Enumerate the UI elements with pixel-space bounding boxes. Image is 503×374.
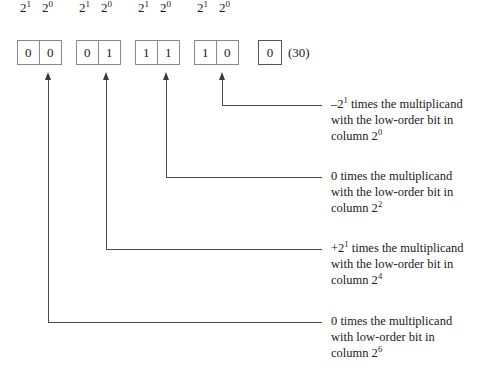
annotation-line-2: with the low-order bit in bbox=[331, 256, 463, 272]
connector-vline-column-6 bbox=[48, 80, 49, 323]
bit-cell: 0 bbox=[77, 41, 99, 64]
extra-bit-note: (30) bbox=[288, 45, 310, 60]
connector-vline-column-4 bbox=[106, 80, 107, 250]
annotation-line-3: column 22 bbox=[331, 200, 453, 216]
bit-cell: 1 bbox=[136, 41, 158, 64]
exponent-label-group-2-low: 20 bbox=[160, 0, 171, 15]
extra-bit-box: 0 bbox=[258, 40, 282, 65]
annotation-line-2: with the low-order bit in bbox=[331, 184, 453, 200]
bit-cell: 0 bbox=[40, 41, 61, 64]
annotation-line-2: with low-order bit in bbox=[331, 329, 452, 345]
exponent-label-group-3-low: 20 bbox=[219, 0, 230, 15]
annotation-column-4: +21 times the multiplicand with the low-… bbox=[331, 240, 463, 288]
connector-hline-column-4 bbox=[106, 249, 322, 250]
bit-group-3: 1 0 bbox=[194, 40, 239, 65]
annotation-column-0: –21 times the multiplicand with the low-… bbox=[331, 96, 463, 144]
annotation-column-6: 0 times the multiplicand with low-order … bbox=[331, 313, 452, 361]
bit-group-1: 0 1 bbox=[76, 40, 121, 65]
annotation-line-3: column 26 bbox=[331, 345, 452, 361]
annotation-line-1: +21 times the multiplicand bbox=[331, 240, 463, 256]
annotation-line-1: –21 times the multiplicand bbox=[331, 96, 463, 112]
exponent-label-group-3-high: 21 bbox=[197, 0, 208, 15]
exponent-label-group-1-high: 21 bbox=[79, 0, 90, 15]
bit-cell: 0 bbox=[18, 41, 40, 64]
annotation-column-2: 0 times the multiplicand with the low-or… bbox=[331, 168, 453, 216]
connector-arrowhead-column-2 bbox=[163, 72, 169, 80]
exponent-label-group-2-high: 21 bbox=[138, 0, 149, 15]
connector-hline-column-2 bbox=[166, 177, 322, 178]
annotation-line-1: 0 times the multiplicand bbox=[331, 313, 452, 329]
bit-cell: 1 bbox=[99, 41, 120, 64]
connector-hline-column-6 bbox=[48, 322, 322, 323]
connector-vline-column-2 bbox=[166, 80, 167, 178]
bit-cell: 1 bbox=[158, 41, 179, 64]
exponent-label-group-0-low: 20 bbox=[42, 0, 53, 15]
exponent-label-group-1-low: 20 bbox=[101, 0, 112, 15]
bit-cell: 1 bbox=[195, 41, 217, 64]
bit-group-2: 1 1 bbox=[135, 40, 180, 65]
connector-vline-column-0 bbox=[222, 80, 223, 106]
annotation-line-3: column 20 bbox=[331, 128, 463, 144]
annotation-line-3: column 24 bbox=[331, 272, 463, 288]
annotation-line-1: 0 times the multiplicand bbox=[331, 168, 453, 184]
bit-cell: 0 bbox=[217, 41, 238, 64]
connector-arrowhead-column-6 bbox=[45, 72, 51, 80]
booth-recoding-diagram: 21 20 21 20 21 20 21 20 0 0 0 1 1 1 1 0 … bbox=[0, 0, 503, 374]
connector-hline-column-0 bbox=[222, 105, 322, 106]
exponent-label-group-0-high: 21 bbox=[20, 0, 31, 15]
annotation-line-2: with the low-order bit in bbox=[331, 112, 463, 128]
bit-group-0: 0 0 bbox=[17, 40, 62, 65]
connector-arrowhead-column-0 bbox=[219, 72, 225, 80]
connector-arrowhead-column-4 bbox=[103, 72, 109, 80]
